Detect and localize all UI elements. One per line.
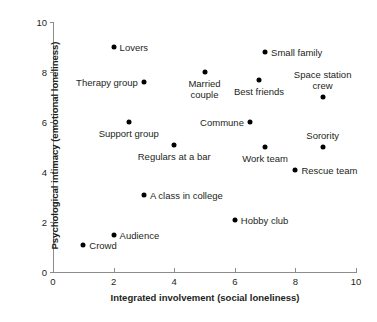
data-point-label: Space station crew (294, 69, 352, 91)
x-tick-label: 8 (293, 276, 298, 287)
data-point-label: Commune (200, 117, 244, 128)
data-point-label: Rescue team (301, 164, 357, 175)
x-tick-mark (356, 268, 357, 272)
y-tick-label: 8 (33, 67, 47, 78)
x-axis-title: Integrated involvement (social lonelines… (53, 292, 357, 303)
data-point-marker (202, 70, 207, 75)
data-point-label: Regulars at a bar (138, 151, 211, 162)
data-point-label: Married couple (188, 78, 220, 100)
y-tick-label: 6 (33, 117, 47, 128)
x-tick-label: 2 (111, 276, 116, 287)
y-tick-label: 10 (33, 17, 47, 28)
data-point-marker (81, 242, 86, 247)
y-tick-label: 2 (33, 217, 47, 228)
data-point-label: Audience (120, 229, 160, 240)
data-point-marker (126, 120, 131, 125)
y-axis-title: Psychological intimacy (emotional loneli… (49, 21, 60, 271)
data-point-marker (141, 192, 146, 197)
data-point-label: Crowd (89, 239, 116, 250)
x-tick-label: 4 (172, 276, 177, 287)
data-point-label: Lovers (120, 42, 149, 53)
data-point-label: Therapy group (76, 77, 138, 88)
y-tick-mark (50, 272, 54, 273)
data-point-marker (320, 145, 325, 150)
y-tick-label: 0 (33, 267, 47, 278)
cropped-caption-text (0, 312, 377, 322)
data-point-marker (172, 142, 177, 147)
data-point-marker (111, 232, 116, 237)
y-tick-label: 4 (33, 167, 47, 178)
data-point-marker (257, 77, 262, 82)
x-tick-mark (114, 268, 115, 272)
data-point-marker (232, 217, 237, 222)
data-point-marker (293, 167, 298, 172)
x-axis-line (53, 272, 357, 273)
data-point-marker (320, 95, 325, 100)
data-point-marker (111, 45, 116, 50)
data-point-label: Sorority (306, 130, 339, 141)
data-point-marker (247, 120, 252, 125)
data-point-label: Support group (99, 128, 159, 139)
x-tick-mark (295, 268, 296, 272)
data-point-label: Small family (271, 47, 322, 58)
scatter-plot-figure: 0246810 0246810 Integrated involvement (… (0, 0, 377, 322)
plot-area (53, 22, 356, 272)
x-tick-mark (235, 268, 236, 272)
data-point-marker (263, 50, 268, 55)
x-tick-label: 0 (50, 276, 55, 287)
data-point-marker (141, 80, 146, 85)
x-tick-label: 10 (351, 276, 362, 287)
data-point-marker (263, 145, 268, 150)
data-point-label: Work team (242, 153, 288, 164)
data-point-label: A class in college (150, 189, 223, 200)
x-tick-mark (174, 268, 175, 272)
data-point-label: Hobby club (241, 214, 289, 225)
data-point-label: Best friends (234, 86, 284, 97)
x-tick-label: 6 (232, 276, 237, 287)
